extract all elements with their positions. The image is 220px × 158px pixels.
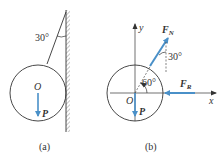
force-fr-label: FR: [179, 78, 192, 91]
figure: 30° O P (a) x y O 60° FN 30° FR: [0, 0, 220, 158]
caption-a: (a): [39, 141, 50, 153]
angle-label-60: 60°: [142, 77, 156, 88]
force-fn-label: FN: [161, 24, 175, 37]
center-label-o: O: [34, 81, 41, 92]
wall-hatch: [66, 10, 70, 132]
y-axis-label: y: [138, 22, 144, 33]
weight-label-p: P: [42, 108, 49, 119]
origin-label-o: O: [126, 95, 133, 106]
caption-b: (b): [145, 141, 157, 153]
angle-label-30: 30°: [35, 32, 49, 43]
angle-arc-30-b: [159, 52, 166, 55]
x-axis-label: x: [208, 95, 214, 106]
panel-a: 30° O P (a): [10, 10, 70, 153]
rope: [47, 12, 66, 64]
angle-label-30-b: 30°: [168, 51, 182, 62]
panel-b: x y O 60° FN 30° FR P (b): [107, 22, 216, 153]
weight-label-p-b: P: [139, 106, 146, 117]
angle-arc-30: [57, 36, 66, 37]
